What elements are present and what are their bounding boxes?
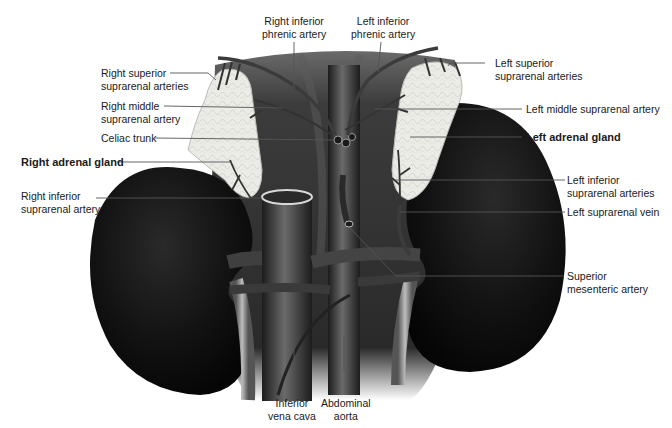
label-left-suprarenal-vein: Left suprarenal vein (567, 206, 659, 219)
label-superior-mesenteric-artery: Superior mesenteric artery (567, 270, 648, 295)
label-celiac-trunk: Celiac trunk (101, 132, 156, 145)
label-right-superior-suprarenal-arteries: Right superior suprarenal arteries (101, 67, 189, 92)
right-renal-artery (230, 288, 330, 291)
label-left-inferior-suprarenal-arteries: Left inferior suprarenal arteries (567, 174, 655, 199)
right-renal-vein (228, 258, 262, 262)
anatomy-figure: Right inferior phrenic artery Left infer… (0, 0, 672, 428)
label-left-middle-suprarenal-artery: Left middle suprarenal artery (526, 103, 660, 116)
label-left-adrenal-gland: Left adrenal gland (526, 131, 621, 144)
ivc-opening (262, 190, 312, 204)
label-left-inferior-phrenic-artery: Left inferior phrenic artery (351, 15, 415, 40)
right-kidney (90, 167, 253, 395)
label-right-inferior-phrenic-artery: Right inferior phrenic artery (262, 15, 326, 40)
label-right-inferior-suprarenal-artery: Right inferior suprarenal artery (21, 190, 100, 215)
left-renal-artery (358, 276, 420, 282)
label-right-adrenal-gland: Right adrenal gland (21, 156, 124, 169)
label-abdominal-aorta: Abdominal aorta (321, 397, 371, 422)
label-inferior-vena-cava: Inferior vena cava (268, 397, 316, 422)
label-left-superior-suprarenal-arteries: Left superior suprarenal arteries (495, 57, 583, 82)
label-right-middle-suprarenal-artery: Right middle suprarenal artery (101, 100, 180, 125)
